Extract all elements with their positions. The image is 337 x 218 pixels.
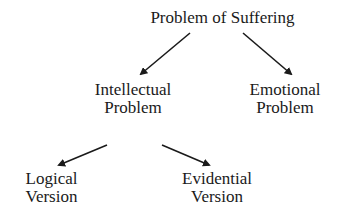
node-label-line2: Problem bbox=[240, 99, 330, 117]
node-label: Problem of Suffering bbox=[130, 9, 315, 27]
node-emotional-problem: Emotional Problem bbox=[240, 81, 330, 117]
arrow-intellectual-to-evidential bbox=[162, 145, 209, 165]
node-evidential-version: Evidential Version bbox=[172, 170, 262, 206]
node-label-line1: Logical bbox=[14, 170, 89, 188]
node-label-line2: Problem bbox=[78, 99, 188, 117]
node-label-line1: Evidential bbox=[172, 170, 262, 188]
node-intellectual-problem: Intellectual Problem bbox=[78, 81, 188, 117]
node-label-line1: Emotional bbox=[240, 81, 330, 99]
arrow-root-to-emotional bbox=[243, 33, 291, 74]
node-problem-of-suffering: Problem of Suffering bbox=[130, 9, 315, 27]
node-label-line1: Intellectual bbox=[78, 81, 188, 99]
node-label-line2: Version bbox=[172, 188, 262, 206]
node-label-line2: Version bbox=[14, 188, 89, 206]
arrow-intellectual-to-logical bbox=[59, 145, 107, 165]
diagram-canvas: Problem of Suffering Intellectual Proble… bbox=[0, 0, 337, 218]
arrow-root-to-intellectual bbox=[141, 33, 190, 74]
node-logical-version: Logical Version bbox=[14, 170, 89, 206]
